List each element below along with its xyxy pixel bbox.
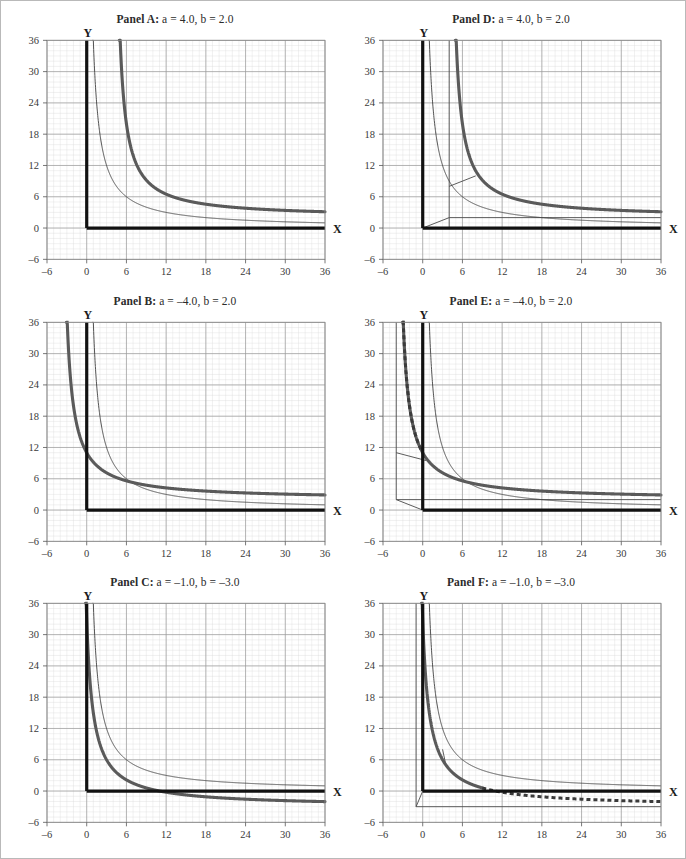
x-tick-label: 6 (460, 830, 465, 841)
x-axis-label: X (333, 504, 342, 518)
x-tick-label: 0 (84, 266, 89, 277)
plot-area: –6061218243036363024181260–6XY (7, 289, 343, 571)
y-tick-label: 36 (29, 317, 40, 328)
x-tick-label: 12 (161, 548, 172, 559)
y-tick-label: 0 (34, 223, 39, 234)
y-axis-label: Y (83, 308, 92, 322)
x-tick-label: –6 (377, 548, 389, 559)
y-tick-label: 18 (365, 129, 376, 140)
figure-container: Panel A: a = 4.0, b = 2.0–60612182430363… (0, 0, 686, 859)
plot-area: –6061218243036363024181260–6XY (343, 289, 679, 571)
x-tick-label: –6 (41, 266, 53, 277)
x-tick-label: 18 (537, 548, 548, 559)
y-tick-label: 36 (365, 598, 376, 609)
panel-params: a = –4.0, b = 2.0 (156, 295, 236, 307)
panel-params: a = 4.0, b = 2.0 (159, 13, 233, 25)
x-tick-label: 30 (616, 548, 627, 559)
x-tick-label: 0 (420, 830, 425, 841)
x-tick-label: 6 (460, 266, 465, 277)
y-tick-label: 18 (365, 692, 376, 703)
panel-f: Panel F: a = –1.0, b = –3.0–606121824303… (343, 570, 679, 852)
x-tick-label: 6 (124, 830, 129, 841)
x-tick-label: 0 (84, 830, 89, 841)
y-tick-label: 30 (29, 630, 40, 641)
x-tick-label: 36 (320, 266, 331, 277)
x-tick-label: 6 (124, 548, 129, 559)
y-tick-label: 12 (29, 160, 40, 171)
x-tick-label: 24 (240, 548, 251, 559)
y-axis-label: Y (419, 590, 428, 604)
y-tick-label: –6 (364, 817, 376, 828)
x-tick-label: 36 (656, 266, 667, 277)
y-tick-label: –6 (28, 817, 40, 828)
x-tick-label: 30 (280, 830, 291, 841)
panel-params: a = –1.0, b = –3.0 (154, 576, 240, 588)
x-tick-label: 18 (537, 266, 548, 277)
y-tick-label: 30 (365, 630, 376, 641)
y-tick-label: 24 (29, 661, 40, 672)
panel-label: Panel B: (114, 295, 157, 307)
y-tick-label: 12 (365, 723, 376, 734)
x-tick-label: 24 (576, 266, 587, 277)
x-tick-label: 18 (201, 830, 212, 841)
y-axis-label: Y (419, 308, 428, 322)
panel-label: Panel E: (450, 295, 493, 307)
y-tick-label: 18 (29, 410, 40, 421)
x-tick-label: 36 (320, 830, 331, 841)
x-tick-label: 12 (497, 266, 508, 277)
y-tick-label: 36 (365, 35, 376, 46)
x-tick-label: 18 (537, 830, 548, 841)
x-tick-label: 12 (497, 830, 508, 841)
y-tick-label: 24 (29, 379, 40, 390)
plot-area: –6061218243036363024181260–6XY (7, 7, 343, 289)
panel-grid: Panel A: a = 4.0, b = 2.0–60612182430363… (7, 7, 679, 852)
x-axis-label: X (669, 785, 678, 799)
y-tick-label: 6 (370, 191, 375, 202)
y-tick-label: –6 (28, 254, 40, 265)
y-tick-label: 24 (365, 97, 376, 108)
panel-params: a = –1.0, b = –3.0 (489, 576, 575, 588)
plot-area: –6061218243036363024181260–6XY (343, 570, 679, 852)
y-tick-label: 24 (29, 97, 40, 108)
x-tick-label: 30 (280, 266, 291, 277)
y-tick-label: 30 (365, 348, 376, 359)
panel-label: Panel C: (110, 576, 153, 588)
y-tick-label: –6 (364, 536, 376, 547)
y-tick-label: 30 (29, 348, 40, 359)
y-tick-label: 12 (365, 442, 376, 453)
y-tick-label: 30 (29, 66, 40, 77)
panel-c: Panel C: a = –1.0, b = –3.0–606121824303… (7, 570, 343, 852)
plot-area: –6061218243036363024181260–6XY (7, 570, 343, 852)
x-tick-label: 36 (656, 830, 667, 841)
y-tick-label: 0 (34, 786, 39, 797)
panel-label: Panel A: (116, 13, 159, 25)
x-tick-label: 24 (240, 830, 251, 841)
y-tick-label: 6 (34, 755, 39, 766)
panel-label: Panel D: (452, 13, 495, 25)
y-tick-label: 6 (370, 473, 375, 484)
x-axis-label: X (333, 785, 342, 799)
panel-title: Panel B: a = –4.0, b = 2.0 (7, 295, 343, 307)
panel-title: Panel A: a = 4.0, b = 2.0 (7, 13, 343, 25)
y-tick-label: 18 (29, 129, 40, 140)
y-tick-label: 0 (370, 786, 375, 797)
y-tick-label: 12 (29, 442, 40, 453)
x-tick-label: 0 (420, 548, 425, 559)
y-axis-label: Y (83, 26, 92, 40)
y-tick-label: 18 (29, 692, 40, 703)
y-axis-label: Y (83, 590, 92, 604)
x-tick-label: –6 (41, 830, 53, 841)
y-tick-label: 12 (365, 160, 376, 171)
x-tick-label: –6 (377, 266, 389, 277)
panel-params: a = –4.0, b = 2.0 (492, 295, 572, 307)
x-tick-label: 24 (576, 548, 587, 559)
x-tick-label: 6 (460, 548, 465, 559)
y-tick-label: 6 (370, 755, 375, 766)
x-axis-label: X (669, 222, 678, 236)
x-tick-label: 24 (240, 266, 251, 277)
x-tick-label: –6 (377, 830, 389, 841)
x-tick-label: 36 (656, 548, 667, 559)
y-tick-label: 0 (370, 223, 375, 234)
panel-label: Panel F: (447, 576, 489, 588)
x-tick-label: 30 (280, 548, 291, 559)
